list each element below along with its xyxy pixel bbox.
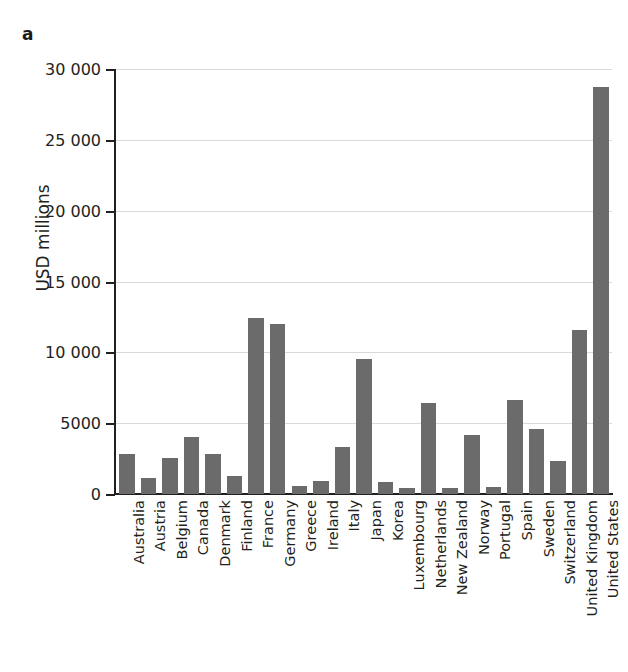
x-axis-tick-label: France — [261, 500, 276, 548]
x-axis-tick-label: Canada — [196, 500, 211, 555]
bar — [292, 486, 308, 495]
y-axis-tick-mark — [106, 69, 115, 71]
bar — [205, 454, 221, 494]
x-axis-tick-label: Spain — [520, 500, 535, 541]
plot-area — [116, 69, 612, 494]
x-axis-labels: AustraliaAustriaBelgiumCanadaDenmarkFinl… — [116, 500, 612, 670]
bar — [399, 488, 415, 494]
bar — [356, 359, 372, 494]
x-axis-tick-label: Switzerland — [563, 500, 578, 585]
x-axis-tick-label: United States — [606, 500, 621, 598]
bar — [421, 403, 437, 494]
x-axis-tick-label: Denmark — [218, 500, 233, 567]
bar-chart-figure: a USD millions 0500010 00015 00020 00025… — [0, 0, 628, 672]
bar — [486, 487, 502, 494]
y-axis-tick-label: 20 000 — [0, 202, 101, 221]
y-axis-tick-mark — [106, 211, 115, 213]
bar — [227, 476, 243, 494]
y-axis-tick-label: 15 000 — [0, 273, 101, 292]
bar — [335, 447, 351, 494]
x-axis-tick-label: Austria — [153, 500, 168, 551]
y-axis-tick-mark — [106, 282, 115, 284]
x-axis-tick-label: Norway — [477, 500, 492, 555]
x-axis-tick-label: Italy — [347, 500, 362, 531]
x-axis-tick-label: Portugal — [498, 500, 513, 560]
y-axis-tick-label: 25 000 — [0, 131, 101, 150]
x-axis-tick-label: Japan — [369, 500, 384, 540]
bar — [550, 461, 566, 494]
bar — [507, 400, 523, 494]
x-axis-tick-label: Ireland — [326, 500, 341, 550]
x-axis-tick-label: Netherlands — [434, 500, 449, 588]
x-axis-tick-label: New Zealand — [455, 500, 470, 595]
y-axis-tick-label: 0 — [0, 485, 101, 504]
bar — [270, 324, 286, 494]
bar — [593, 87, 609, 494]
bar — [378, 482, 394, 494]
bar — [141, 478, 157, 494]
bar — [572, 330, 588, 494]
x-axis-tick-label: Belgium — [175, 500, 190, 559]
bar — [313, 481, 329, 494]
y-axis-tick-label: 10 000 — [0, 343, 101, 362]
bar — [184, 437, 200, 494]
bar — [162, 458, 178, 494]
x-axis-tick-label: Finland — [240, 500, 255, 552]
x-axis-tick-label: Australia — [132, 500, 147, 564]
bar — [464, 435, 480, 494]
x-axis-tick-label: Sweden — [542, 500, 557, 557]
x-axis-tick-label: Korea — [391, 500, 406, 541]
x-axis-tick-label: Greece — [304, 500, 319, 552]
y-axis-tick-mark — [106, 140, 115, 142]
y-axis-tick-mark — [106, 423, 115, 425]
bar — [442, 488, 458, 494]
y-axis-tick-label: 30 000 — [0, 60, 101, 79]
x-axis-tick-label: United Kingdom — [585, 500, 600, 616]
x-axis-tick-label: Luxembourg — [412, 500, 427, 590]
panel-label: a — [22, 26, 33, 43]
y-axis-title: USD millions — [33, 138, 53, 338]
y-axis-tick-mark — [106, 352, 115, 354]
bar — [529, 429, 545, 494]
bar — [248, 318, 264, 494]
y-axis-tick-label: 5000 — [0, 414, 101, 433]
y-axis-tick-mark — [106, 494, 115, 496]
bar — [119, 454, 135, 494]
x-axis-tick-label: Germany — [283, 500, 298, 567]
